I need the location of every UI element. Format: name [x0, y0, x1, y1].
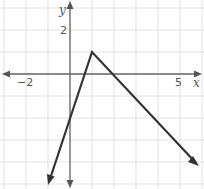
coordinate-graph [0, 0, 204, 189]
tick-label-neg2: −2 [17, 77, 33, 88]
tick-label-2: 2 [60, 25, 67, 36]
tick-label-5: 5 [175, 77, 182, 88]
grid-lines [0, 0, 204, 189]
y-axis-label: y [59, 4, 66, 16]
x-axis-label: x [193, 77, 200, 89]
y-axis [67, 1, 74, 188]
left-arrowhead-icon [47, 174, 55, 185]
